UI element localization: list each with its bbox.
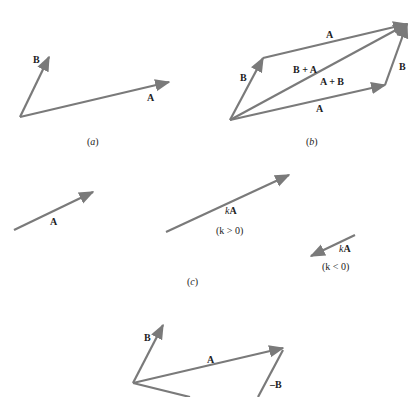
vector-c-kA-pos <box>166 175 289 232</box>
label-d-neg-B: –B <box>270 380 282 390</box>
caption-a: (a) <box>87 136 99 147</box>
vector-b-A-bottom <box>230 85 385 120</box>
vector-d-diff <box>133 383 190 397</box>
label-d-A: A <box>207 355 214 365</box>
label-b-A-plus-B: A + B <box>320 77 344 87</box>
label-b-A-bottom: A <box>316 104 323 114</box>
label-c-k-pos-cond: (k > 0) <box>216 226 243 236</box>
label-a-B: B <box>33 55 40 65</box>
vector-a-B <box>20 57 49 117</box>
label-c-kA-neg: kA <box>339 244 351 254</box>
label-a-A: A <box>147 93 154 103</box>
label-b-A-top: A <box>326 30 333 40</box>
label-b-B-right: B <box>399 62 406 72</box>
label-b-B-left: B <box>240 73 247 83</box>
label-c-A: A <box>50 217 57 227</box>
caption-c: (c) <box>187 276 198 287</box>
vector-diagram <box>0 0 409 397</box>
vector-b-A-top <box>263 24 407 58</box>
label-b-B-plus-A: B + A <box>293 65 317 75</box>
label-c-k-neg-cond: (k < 0) <box>322 262 349 272</box>
label-c-kA-pos: kA <box>225 206 237 216</box>
label-d-B: B <box>144 333 151 343</box>
caption-b: (b) <box>306 136 318 147</box>
